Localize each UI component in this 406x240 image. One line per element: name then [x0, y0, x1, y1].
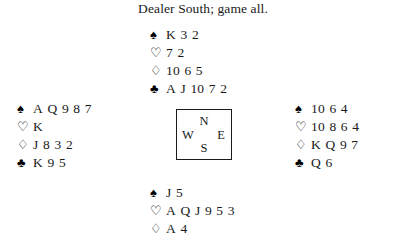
hand-east-spades-row: ♠ 1064	[295, 100, 359, 118]
hand-east-spades: 1064	[310, 100, 348, 118]
hand-west-clubs: K95	[32, 154, 66, 172]
hand-south-spades: J5	[165, 184, 183, 202]
hand-west-spades-row: ♠ AQ987	[17, 100, 92, 118]
hand-west: ♠ AQ987 ♡ K ♢ J832 ♣ K95	[17, 100, 92, 172]
spade-icon: ♠	[150, 26, 165, 44]
hand-south-hearts: AQJ953	[165, 202, 235, 220]
heart-icon: ♡	[150, 44, 165, 62]
hand-south-hearts-row: ♡ AQJ953	[150, 202, 235, 220]
club-icon: ♣	[150, 80, 165, 98]
diamond-icon: ♢	[150, 220, 165, 238]
hand-east-hearts: 10864	[310, 118, 359, 136]
hand-south-diamonds-row: ♢ A4	[150, 220, 235, 238]
compass-east-label: E	[217, 129, 225, 142]
hand-east-diamonds: KQ97	[310, 136, 358, 154]
hand-south: ♠ J5 ♡ AQJ953 ♢ A4	[150, 184, 235, 238]
hand-west-diamonds-row: ♢ J832	[17, 136, 92, 154]
deal-conditions-title: Dealer South; game all.	[0, 1, 406, 17]
hand-north-hearts: 72	[165, 44, 184, 62]
heart-icon: ♡	[295, 118, 310, 136]
hand-north-spades: K32	[165, 26, 199, 44]
club-icon: ♣	[17, 154, 32, 172]
hand-east-diamonds-row: ♢ KQ97	[295, 136, 359, 154]
hand-east: ♠ 1064 ♡ 10864 ♢ KQ97 ♣ Q6	[295, 100, 359, 172]
hand-north-diamonds: 1065	[165, 62, 203, 80]
hand-north: ♠ K32 ♡ 72 ♢ 1065 ♣ AJ1072	[150, 26, 227, 98]
hand-east-clubs: Q6	[310, 154, 332, 172]
compass-north-label: N	[177, 115, 231, 128]
spade-icon: ♠	[17, 100, 32, 118]
heart-icon: ♡	[150, 202, 165, 220]
hand-west-hearts-row: ♡ K	[17, 118, 92, 136]
club-icon: ♣	[295, 154, 310, 172]
hand-east-hearts-row: ♡ 10864	[295, 118, 359, 136]
diamond-icon: ♢	[150, 62, 165, 80]
hand-west-diamonds: J832	[32, 136, 73, 154]
spade-icon: ♠	[295, 100, 310, 118]
bridge-deal-diagram: Dealer South; game all. ♠ K32 ♡ 72 ♢ 106…	[0, 0, 406, 240]
hand-west-spades: AQ987	[32, 100, 92, 118]
spade-icon: ♠	[150, 184, 165, 202]
hand-south-diamonds: A4	[165, 220, 187, 238]
hand-west-clubs-row: ♣ K95	[17, 154, 92, 172]
hand-north-diamonds-row: ♢ 1065	[150, 62, 227, 80]
diamond-icon: ♢	[295, 136, 310, 154]
hand-north-hearts-row: ♡ 72	[150, 44, 227, 62]
hand-north-clubs-row: ♣ AJ1072	[150, 80, 227, 98]
hand-south-spades-row: ♠ J5	[150, 184, 235, 202]
hand-west-hearts: K	[32, 118, 43, 136]
compass-south-label: S	[177, 142, 231, 155]
hand-north-spades-row: ♠ K32	[150, 26, 227, 44]
diamond-icon: ♢	[17, 136, 32, 154]
heart-icon: ♡	[17, 118, 32, 136]
hand-east-clubs-row: ♣ Q6	[295, 154, 359, 172]
hand-north-clubs: AJ1072	[165, 80, 227, 98]
compass-west-label: W	[182, 129, 194, 142]
compass-box: N W E S	[176, 109, 232, 160]
